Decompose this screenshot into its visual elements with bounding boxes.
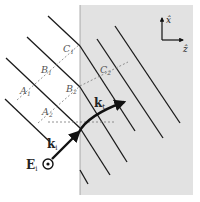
svg-text:A2: A2 (41, 106, 53, 118)
svg-text:A1: A1 (19, 85, 31, 97)
ei-label: Ei (26, 158, 38, 173)
incident-wavefronts (5, 16, 80, 142)
svg-text:B2: B2 (65, 83, 77, 95)
svg-text:C1: C1 (63, 43, 74, 55)
x-axis-label: x̂ (166, 15, 171, 25)
refraction-diagram: C1 B1 A1 B2 A2 C2 ki kt Ei x̂ ẑ (0, 0, 200, 202)
z-axis-label: ẑ (182, 44, 188, 54)
e-field-out-of-page-icon (43, 159, 53, 169)
svg-text:B1: B1 (40, 64, 52, 76)
ki-label: ki (47, 137, 58, 152)
